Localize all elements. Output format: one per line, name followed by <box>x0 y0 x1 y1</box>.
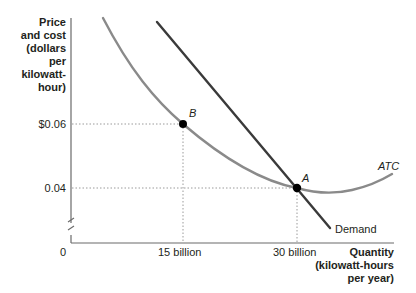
y-axis-title: Price and cost (dollars per kilowatt- ho… <box>8 16 66 94</box>
point-a <box>293 184 301 192</box>
point-b <box>179 120 187 128</box>
x-tick-15: 15 billion <box>158 246 201 259</box>
y-title-line: hour) <box>8 81 66 94</box>
x-title-line: per year) <box>300 272 394 285</box>
y-tick-004: 0.04 <box>20 182 66 195</box>
x-title-line: Quantity <box>300 246 394 259</box>
y-title-line: per <box>8 55 66 68</box>
label-a: A <box>302 172 309 185</box>
guide-lines <box>72 124 297 242</box>
origin-label: 0 <box>60 246 66 259</box>
label-atc: ATC <box>378 160 399 173</box>
axis-break-icon <box>68 218 74 230</box>
y-title-line: and cost <box>8 29 66 42</box>
x-axis-title: Quantity (kilowatt-hours per year) <box>300 246 394 285</box>
y-title-line: (dollars <box>8 42 66 55</box>
y-title-line: kilowatt- <box>8 68 66 81</box>
label-demand: Demand <box>335 223 377 236</box>
atc-curve <box>103 18 392 193</box>
label-b: B <box>189 107 196 120</box>
x-title-line: (kilowatt-hours <box>300 259 394 272</box>
y-tick-006: $0.06 <box>20 118 66 131</box>
y-title-line: Price <box>8 16 66 29</box>
